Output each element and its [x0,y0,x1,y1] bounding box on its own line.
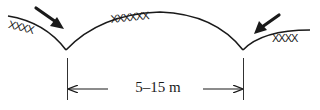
right-hatch: XXXX [272,33,297,44]
trough-mound-diagram: XXXX XXXXXX XXXX 5–15 m [0,0,320,110]
left-arrow-icon [36,8,64,29]
dimension-label: 5–15 m [116,78,200,96]
central-mound-line [66,12,243,50]
